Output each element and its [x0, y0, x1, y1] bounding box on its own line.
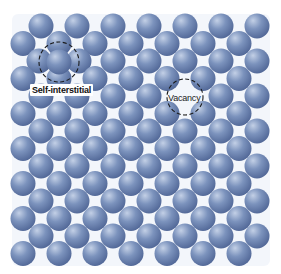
atom: [173, 224, 198, 249]
atom: [209, 119, 234, 144]
atom: [29, 224, 54, 249]
atom: [47, 101, 72, 126]
atom: [83, 241, 108, 266]
atom: [137, 189, 162, 214]
atom: [119, 66, 144, 91]
atom: [83, 101, 108, 126]
atom: [65, 14, 90, 39]
atom: [155, 136, 180, 161]
atom: [191, 136, 216, 161]
atom: [101, 14, 126, 39]
atom: [209, 49, 234, 74]
atom: [155, 241, 180, 266]
atom: [137, 84, 162, 109]
atom: [173, 189, 198, 214]
atom: [245, 154, 270, 179]
atom: [65, 154, 90, 179]
atom: [137, 224, 162, 249]
atom: [47, 241, 72, 266]
atom: [47, 136, 72, 161]
atom: [47, 206, 72, 231]
atom: [101, 49, 126, 74]
atom: [173, 119, 198, 144]
atom: [83, 136, 108, 161]
atom: [101, 119, 126, 144]
atom: [245, 189, 270, 214]
atom: [119, 101, 144, 126]
atom: [155, 31, 180, 56]
atom: [65, 189, 90, 214]
lattice-diagram: [0, 0, 281, 274]
atom: [209, 14, 234, 39]
atom: [155, 101, 180, 126]
atom: [47, 171, 72, 196]
atom: [227, 31, 252, 56]
atom: [11, 206, 36, 231]
atom: [119, 171, 144, 196]
atom: [29, 14, 54, 39]
atom: [173, 49, 198, 74]
atom: [191, 66, 216, 91]
atom: [245, 119, 270, 144]
atom: [101, 154, 126, 179]
atom: [11, 136, 36, 161]
atom: [245, 224, 270, 249]
atom: [83, 171, 108, 196]
atom: [209, 224, 234, 249]
atom: [227, 66, 252, 91]
atom: [29, 154, 54, 179]
atom: [101, 84, 126, 109]
self-interstitial-label: Self-interstitial: [30, 84, 93, 96]
atom: [83, 206, 108, 231]
atom: [119, 241, 144, 266]
atom: [11, 241, 36, 266]
atom: [227, 171, 252, 196]
atom: [155, 206, 180, 231]
atom: [209, 154, 234, 179]
atom: [137, 119, 162, 144]
atom: [191, 101, 216, 126]
atom: [29, 189, 54, 214]
atom: [65, 119, 90, 144]
atom: [65, 224, 90, 249]
atom: [101, 189, 126, 214]
interstitial-atom: [47, 50, 72, 75]
atom: [191, 31, 216, 56]
atom: [191, 206, 216, 231]
atom: [11, 171, 36, 196]
atom: [227, 101, 252, 126]
atom: [245, 84, 270, 109]
atom: [245, 14, 270, 39]
atom: [101, 224, 126, 249]
atom: [11, 101, 36, 126]
atom: [173, 154, 198, 179]
atom: [119, 31, 144, 56]
atom: [209, 84, 234, 109]
atom: [155, 66, 180, 91]
atom: [191, 241, 216, 266]
atom: [137, 49, 162, 74]
atom: [209, 189, 234, 214]
atom: [119, 136, 144, 161]
vacancy-label: Vacancy: [168, 92, 200, 104]
atom: [227, 241, 252, 266]
atom: [173, 14, 198, 39]
atom: [137, 154, 162, 179]
atom: [227, 136, 252, 161]
atom: [137, 14, 162, 39]
atom: [227, 206, 252, 231]
atom: [245, 49, 270, 74]
atom: [119, 206, 144, 231]
atom: [29, 119, 54, 144]
atom: [191, 171, 216, 196]
atom: [155, 171, 180, 196]
